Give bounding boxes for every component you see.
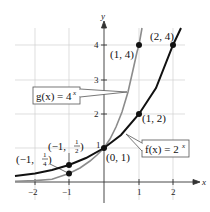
tick-x-minus-1: −1 [62, 187, 72, 197]
f-label-box: f(x) = 2 x [126, 134, 189, 157]
tick-y-4: 4 [94, 40, 99, 50]
tick-y-2: 2 [94, 109, 99, 119]
svg-text:1: 1 [43, 151, 47, 159]
tick-y-3: 3 [94, 75, 99, 85]
tick-x-1: 1 [137, 187, 142, 197]
point-2-4 [170, 42, 176, 48]
label-2-4: (2, 4) [150, 30, 174, 43]
g-label-box: g(x) = 4 x [33, 87, 127, 104]
label-minus1-half: (−1, 1 2 ) [48, 138, 84, 155]
exponential-chart: x y −2 −1 1 2 4 3 2 1 (1, 4) (2, 4) (1, … [0, 0, 210, 212]
g-label: g(x) = 4 [36, 90, 72, 103]
f-label: f(x) = 2 [145, 143, 179, 156]
x-axis-arrow [193, 180, 200, 185]
svg-text:(−1,: (−1, [16, 153, 34, 166]
label-1-4: (1, 4) [110, 48, 134, 61]
y-axis-label: y [100, 11, 105, 21]
svg-text:1: 1 [75, 138, 79, 146]
tick-y-1: 1 [96, 140, 101, 150]
label-1-2: (1, 2) [142, 112, 166, 125]
label-minus1-quarter: (−1, 1 4 ) [16, 151, 52, 168]
tick-x-minus-2: −2 [28, 187, 38, 197]
svg-text:2: 2 [75, 147, 79, 155]
point-1-4 [136, 42, 142, 48]
x-axis-label: x [201, 177, 206, 187]
point-minus1-quarter [66, 171, 72, 177]
label-0-1: (0, 1) [106, 151, 130, 164]
svg-text:4: 4 [43, 160, 47, 168]
svg-text:(−1,: (−1, [48, 140, 66, 153]
point-minus1-half [66, 162, 72, 168]
svg-text:): ) [80, 140, 84, 153]
tick-x-2: 2 [171, 187, 176, 197]
y-axis-arrow [102, 21, 107, 28]
